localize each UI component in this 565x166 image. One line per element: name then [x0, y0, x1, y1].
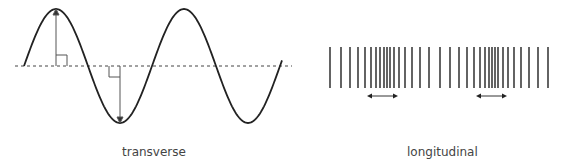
wavelength-arrow	[367, 94, 398, 99]
wavelength-arrow	[476, 94, 507, 99]
amplitude-arrow-down	[109, 66, 123, 123]
transverse-wave	[15, 9, 292, 123]
longitudinal-wave	[330, 47, 548, 99]
amplitude-arrow-up	[53, 9, 67, 66]
transverse-label: transverse	[122, 145, 186, 159]
wave-diagram	[0, 0, 565, 166]
longitudinal-label: longitudinal	[407, 145, 478, 159]
